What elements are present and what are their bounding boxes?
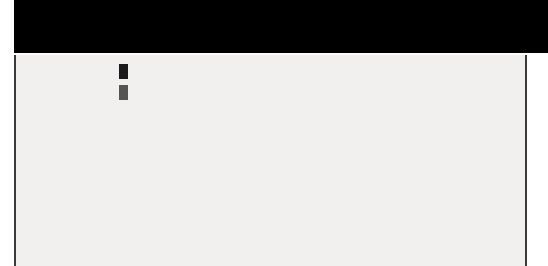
bar-series-group [84,70,521,251]
chart-screenshot [0,0,548,266]
title-banner [14,0,548,53]
y-axis-title-wrap [16,55,42,266]
plot-area [84,70,521,251]
chart-panel [14,55,527,266]
chart-panel-inner [16,55,525,266]
left-edge-strip [0,55,14,266]
